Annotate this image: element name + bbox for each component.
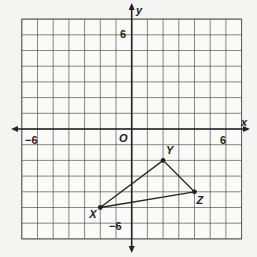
y-axis-label: y: [135, 4, 143, 16]
vertex-label-z: Z: [196, 194, 205, 206]
coordinate-plane: XYZ x y O −6 6 6 −6: [0, 0, 257, 257]
x-axis-label: x: [240, 116, 248, 128]
origin-label: O: [119, 132, 128, 144]
x-arrow-left-icon: [11, 126, 18, 132]
tick-label-y-neg6: −6: [109, 220, 122, 232]
vertex-y: [161, 158, 166, 163]
tick-label-x-neg6: −6: [25, 134, 38, 146]
y-arrow-up-icon: [129, 3, 135, 10]
tick-label-y-6: 6: [120, 28, 126, 40]
y-arrow-down-icon: [129, 246, 135, 253]
tick-label-x-6: 6: [220, 134, 226, 146]
vertex-x: [98, 205, 103, 210]
vertex-label-x: X: [88, 208, 97, 220]
